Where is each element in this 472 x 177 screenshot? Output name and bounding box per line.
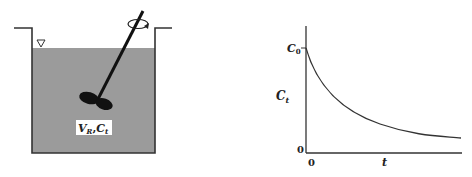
c0-label: C0 bbox=[287, 42, 301, 56]
y-zero-label: 0 bbox=[297, 144, 304, 155]
y-axis-label: Ct bbox=[276, 89, 290, 105]
x-zero-label: 0 bbox=[308, 157, 315, 168]
liquid-level-icon bbox=[37, 40, 45, 47]
figure-canvas: VR,Ct C0 Ct 0 0 t bbox=[0, 0, 472, 177]
concentration-chart: C0 Ct 0 0 t bbox=[276, 26, 462, 169]
x-axis-label: t bbox=[382, 156, 387, 169]
reactor-label: VR,Ct bbox=[78, 122, 109, 136]
batch-reactor-diagram: VR,Ct bbox=[14, 11, 172, 153]
decay-curve bbox=[306, 48, 461, 138]
